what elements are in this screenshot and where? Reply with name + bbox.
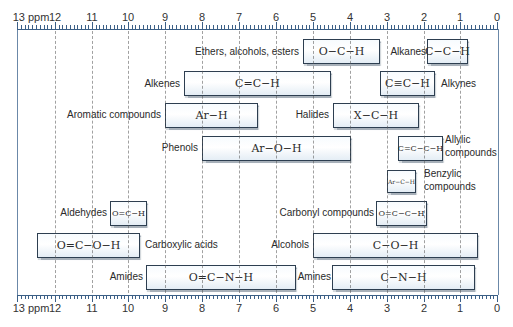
minor-tick-top xyxy=(224,25,225,29)
minor-tick-bottom xyxy=(354,295,355,299)
minor-tick-top xyxy=(85,25,86,29)
minor-tick-bottom xyxy=(51,295,52,299)
major-tick-top xyxy=(387,22,388,29)
minor-tick-top xyxy=(176,25,177,29)
minor-tick-top xyxy=(25,25,26,29)
minor-tick-top xyxy=(442,25,443,29)
minor-tick-bottom xyxy=(85,295,86,299)
minor-tick-top xyxy=(232,25,233,29)
minor-tick-top xyxy=(449,25,450,29)
minor-tick-bottom xyxy=(357,295,358,299)
bar-alcohols: C−O−H xyxy=(313,233,478,258)
minor-tick-bottom xyxy=(132,295,133,299)
label-alkenes: Alkenes xyxy=(144,78,180,90)
minor-tick-top xyxy=(135,25,136,29)
minor-tick-top xyxy=(320,25,321,29)
minor-tick-top xyxy=(306,25,307,29)
minor-tick-top xyxy=(209,25,210,29)
major-tick-top xyxy=(497,22,498,29)
minor-tick-bottom xyxy=(250,295,251,299)
minor-tick-top xyxy=(438,25,439,29)
minor-tick-top xyxy=(265,25,266,29)
minor-tick-top xyxy=(471,25,472,29)
grid-line xyxy=(387,31,388,293)
minor-tick-top xyxy=(394,25,395,29)
minor-tick-bottom xyxy=(482,295,483,299)
minor-tick-bottom xyxy=(475,295,476,299)
minor-tick-bottom xyxy=(261,295,262,299)
minor-tick-top xyxy=(154,25,155,29)
label-ethers: Ethers, alcohols, esters xyxy=(195,46,299,58)
major-tick-top xyxy=(424,22,425,29)
minor-tick-bottom xyxy=(161,295,162,299)
tick-label-bottom: 3 xyxy=(384,302,390,314)
minor-tick-top xyxy=(490,25,491,29)
minor-tick-bottom xyxy=(453,295,454,299)
minor-tick-top xyxy=(335,25,336,29)
major-tick-top xyxy=(55,22,56,29)
minor-tick-bottom xyxy=(339,295,340,299)
minor-tick-bottom xyxy=(25,295,26,299)
minor-tick-bottom xyxy=(217,295,218,299)
label-aromatic: Aromatic compounds xyxy=(67,109,161,121)
grid-line xyxy=(460,31,461,293)
grid-line xyxy=(350,31,351,293)
minor-tick-bottom xyxy=(103,295,104,299)
minor-tick-bottom xyxy=(74,295,75,299)
minor-tick-bottom xyxy=(66,295,67,299)
minor-tick-bottom xyxy=(243,295,244,299)
minor-tick-top xyxy=(287,25,288,29)
tick-label-bottom: 0 xyxy=(494,302,500,314)
minor-tick-bottom xyxy=(324,295,325,299)
minor-tick-bottom xyxy=(431,295,432,299)
minor-tick-bottom xyxy=(47,295,48,299)
tick-label-bottom: 2 xyxy=(421,302,427,314)
minor-tick-top xyxy=(172,25,173,29)
minor-tick-top xyxy=(258,25,259,29)
major-tick-top xyxy=(350,22,351,29)
major-tick-top xyxy=(313,22,314,29)
minor-tick-bottom xyxy=(143,295,144,299)
minor-tick-bottom xyxy=(306,295,307,299)
label-benzylic-2: compounds xyxy=(424,181,476,193)
minor-tick-bottom xyxy=(298,295,299,299)
minor-tick-bottom xyxy=(88,295,89,299)
minor-tick-bottom xyxy=(291,295,292,299)
major-tick-bottom xyxy=(165,295,166,302)
minor-tick-bottom xyxy=(320,295,321,299)
minor-tick-top xyxy=(376,25,377,29)
minor-tick-bottom xyxy=(187,295,188,299)
minor-tick-top xyxy=(283,25,284,29)
minor-tick-top xyxy=(431,25,432,29)
minor-tick-top xyxy=(413,25,414,29)
major-tick-bottom xyxy=(92,295,93,302)
minor-tick-bottom xyxy=(228,295,229,299)
major-tick-bottom xyxy=(460,295,461,302)
minor-tick-top xyxy=(99,25,100,29)
label-amides: Amides xyxy=(110,271,143,283)
minor-tick-top xyxy=(51,25,52,29)
label-alkanes: Alkanes xyxy=(390,46,426,58)
minor-tick-top xyxy=(228,25,229,29)
major-tick-bottom xyxy=(128,295,129,302)
minor-tick-top xyxy=(372,25,373,29)
minor-tick-bottom xyxy=(486,295,487,299)
tick-label-bottom: 5 xyxy=(310,302,316,314)
minor-tick-bottom xyxy=(99,295,100,299)
minor-tick-bottom xyxy=(369,295,370,299)
minor-tick-bottom xyxy=(114,295,115,299)
minor-tick-bottom xyxy=(232,295,233,299)
minor-tick-top xyxy=(32,25,33,29)
minor-tick-bottom xyxy=(328,295,329,299)
minor-tick-bottom xyxy=(70,295,71,299)
minor-tick-bottom xyxy=(428,295,429,299)
minor-tick-top xyxy=(62,25,63,29)
minor-tick-bottom xyxy=(295,295,296,299)
minor-tick-bottom xyxy=(265,295,266,299)
minor-tick-bottom xyxy=(258,295,259,299)
minor-tick-bottom xyxy=(442,295,443,299)
minor-tick-top xyxy=(369,25,370,29)
minor-tick-top xyxy=(343,25,344,29)
minor-tick-bottom xyxy=(493,295,494,299)
minor-tick-bottom xyxy=(287,295,288,299)
